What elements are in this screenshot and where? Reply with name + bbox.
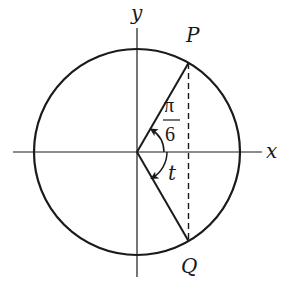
fraction-denominator: 6: [165, 123, 175, 145]
fraction-numerator: π: [164, 94, 174, 116]
point-q-label: Q: [181, 254, 197, 278]
angle-arc-lower: [152, 152, 167, 178]
angle-arc-upper: [152, 130, 165, 153]
x-axis-label: x: [266, 139, 277, 163]
segment-op: [137, 63, 189, 152]
unit-circle-diagram: y x P Q t π 6: [0, 0, 290, 288]
segment-oq: [137, 152, 189, 241]
point-p-label: P: [185, 23, 200, 47]
angle-pi-over-6-label: π 6: [163, 94, 180, 145]
angle-t-label: t: [168, 161, 177, 185]
y-axis-label: y: [130, 1, 143, 25]
